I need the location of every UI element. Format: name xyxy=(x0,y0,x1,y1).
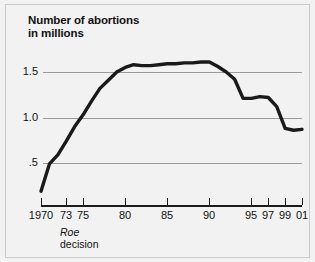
roe-annotation-plain: decision xyxy=(60,238,99,250)
plot-area: 1.51.0.5 1970737580859095979901 xyxy=(0,0,315,262)
chart-figure: Number of abortions in millions 1.51.0.5… xyxy=(0,0,315,262)
roe-annotation-italic: Roe xyxy=(60,226,99,238)
data-line-chart xyxy=(0,0,315,262)
series-line-abortions xyxy=(41,62,302,191)
roe-decision-annotation: Roe decision xyxy=(60,226,99,250)
